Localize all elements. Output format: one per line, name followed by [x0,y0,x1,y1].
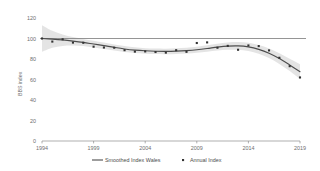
annual-index-point [41,37,43,39]
x-tick-2014: 2014 [242,145,254,151]
annual-index-point [196,42,198,44]
annual-index-point [154,51,156,53]
annual-index-point [268,49,270,51]
annual-index-point [165,52,167,54]
annual-index-point [237,49,239,51]
y-tick-120: 120 [27,15,36,21]
annual-index-point [103,46,105,48]
annual-index-point [258,45,260,47]
x-tick-1994: 1994 [36,145,48,151]
y-axis-title: BBS index [17,71,23,96]
x-tick-1999: 1999 [88,145,100,151]
y-tick-100: 100 [27,36,36,42]
y-tick-80: 80 [30,56,36,62]
chart-legend: Smoothed Index Wales Annual Index [92,157,222,163]
annual-index-point [93,46,95,48]
y-tick-0: 0 [33,138,36,144]
annual-index-point [185,51,187,53]
chart-background [0,0,320,171]
annual-index-point [124,49,126,51]
chart-container: 020406080100120 BBS index 19941999200420… [0,0,320,171]
x-tick-2009: 2009 [191,145,203,151]
annual-index-point [227,45,229,47]
legend-point-swatch [182,159,184,161]
y-tick-20: 20 [30,118,36,124]
legend-item-annual-index: Annual Index [190,157,222,163]
annual-index-point [51,41,53,43]
annual-index-point [175,49,177,51]
x-tick-2004: 2004 [139,145,151,151]
annual-index-point [113,47,115,49]
y-tick-60: 60 [30,77,36,83]
annual-index-point [299,76,301,78]
annual-index-point [216,47,218,49]
annual-index-point [289,65,291,67]
legend-item-smoothed-index-wales: Smoothed Index Wales [105,157,161,163]
bbs-index-line-chart: 020406080100120 BBS index 19941999200420… [0,0,320,171]
annual-index-point [62,38,64,40]
annual-index-point [247,44,249,46]
annual-index-point [206,41,208,43]
annual-index-point [82,42,84,44]
x-tick-2019: 2019 [294,145,306,151]
annual-index-point [278,57,280,59]
annual-index-point [134,51,136,53]
annual-index-point [144,50,146,52]
annual-index-point [72,42,74,44]
y-tick-40: 40 [30,97,36,103]
